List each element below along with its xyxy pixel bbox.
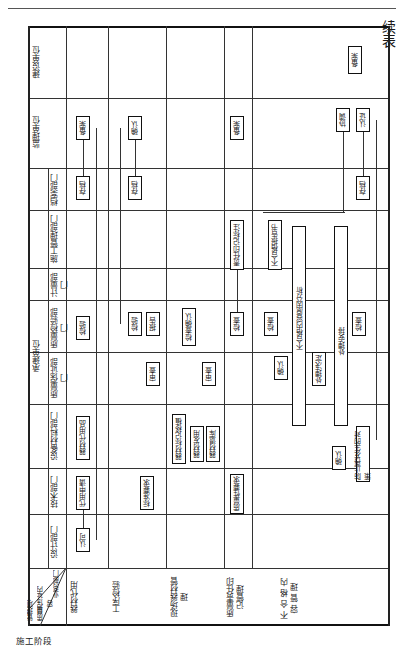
box-standard-requirement: 标准要求 (140, 476, 154, 510)
arrow (135, 140, 136, 176)
box-check: 检查 (264, 312, 278, 336)
dept-label-qc: 质量检验部门 (50, 306, 66, 350)
arrow (343, 132, 344, 212)
row-label-responsibility-mark: 质量责任印记管理 (226, 574, 250, 620)
box-confirm: 确认 (274, 356, 288, 380)
table-top-border (30, 26, 388, 28)
row-divider (30, 98, 388, 99)
table-bottom-border (30, 624, 388, 626)
arrow (83, 140, 84, 176)
box-responsibility-mark: 责任印记标注 (230, 220, 244, 270)
col-divider (224, 26, 225, 568)
connector (96, 128, 97, 540)
box-file-record: 备案 (230, 116, 244, 140)
dept-label-qa: 质量保证部门 (50, 356, 66, 400)
corner-top-label: 业务部门 (52, 570, 64, 598)
connector (120, 128, 121, 324)
box-check: 检查 (230, 312, 244, 336)
row-label-site-material: 现场器材管理 (170, 574, 220, 620)
box-material-mark-transfer: 器材标记移植 (172, 414, 186, 464)
box-inspect: 检验 (128, 312, 142, 336)
box-archive: 存档 (356, 176, 370, 200)
box-material-issue: 器材发用 (190, 426, 204, 462)
dept-label-construction: 施工管理部门 (50, 214, 66, 264)
connector (263, 212, 345, 213)
box-report: 报告 (146, 312, 160, 336)
bar-handling-arrangement: 处理安排 (334, 226, 348, 426)
box-file-record: 备案 (348, 46, 362, 74)
row-label-nonconformance: 不合格内容管理 (280, 574, 360, 620)
arrow (83, 510, 84, 528)
dept-label-owner: 建设单位 (32, 40, 64, 84)
bar-cause-analysis: 不合格内容原因分析 (292, 226, 306, 426)
corner-bottom-label: 管理项目 (26, 598, 36, 624)
dept-label-tech: 技术部门 (50, 472, 66, 512)
arrow (237, 270, 238, 312)
row-label-process-inspection: 工序检验 (112, 574, 162, 620)
corner-middle-label: 质量保证内容 (36, 586, 46, 622)
col-divider (252, 26, 253, 568)
box-certify: 认证 (356, 108, 370, 132)
contractor-group-label: 承建单位 (32, 326, 48, 386)
box-check-confirm: 检查确认 (182, 308, 196, 346)
col-divider (66, 568, 67, 626)
dept-label-archive: 档案部门 (50, 172, 66, 208)
box-file-record: 备案 (76, 116, 90, 140)
box-coordinate: 协调 (336, 108, 350, 132)
box-prevent-recurrence: 防止再发生的对策 (356, 426, 370, 482)
box-quality-requirement: 质量性要求 (230, 474, 244, 514)
col-divider (108, 26, 109, 568)
dept-label-metrology: 计量部门 (50, 272, 66, 298)
dept-label-equip: 设备材料部门 (50, 408, 66, 464)
box-review: 审查 (146, 362, 160, 386)
row-label-substitution: 器材代用 (70, 574, 104, 620)
box-archive: 存档 (76, 176, 90, 200)
box-substitution-request: 代用申请 (76, 476, 90, 510)
box-review: 审查 (202, 362, 216, 386)
box-confirm: 确认 (128, 116, 142, 140)
connector (376, 120, 377, 440)
bar-cause-analysis-label: 不合格内容原因分析 (295, 287, 305, 350)
box-substitute-item: 器材代用品 (76, 416, 90, 460)
stage-label: 施工阶段 (4, 636, 64, 647)
flow-table: 建设单位 监理单位 档案部门 施工管理部门 计量部门 质量检验部门 质量保证部门… (28, 26, 390, 626)
box-confirm: 确认 (332, 446, 346, 470)
bar-handling-arrangement-label: 处理安排 (337, 327, 347, 355)
box-material-return: 器材退库 (206, 426, 220, 462)
arrow (363, 132, 364, 176)
box-disposition-decision: 处理决定 (312, 352, 326, 386)
box-approve: 认可 (76, 528, 90, 552)
col-divider (166, 26, 167, 568)
box-inspect: 检验 (76, 316, 90, 340)
dept-label-design: 设计部门 (50, 518, 66, 566)
row-divider (30, 568, 388, 569)
box-nonconformance-report: 不合格报告书 (268, 220, 282, 270)
row-divider (30, 210, 388, 211)
contractor-group-divider (48, 168, 49, 568)
dept-label-supervisor: 监理单位 (32, 110, 64, 154)
box-archive: 存档 (128, 176, 142, 200)
top-rule (8, 8, 396, 9)
box-check: 检查 (352, 312, 366, 336)
